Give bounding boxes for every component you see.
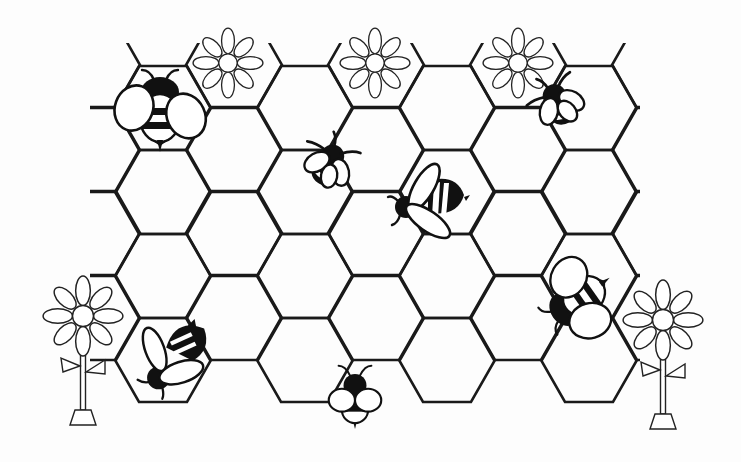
- hex-cell: [328, 276, 424, 360]
- flower-cell-1-icon: [193, 28, 263, 98]
- hex-cell: [257, 66, 353, 150]
- hex-cell: [115, 234, 211, 318]
- flower-cell-2-icon: [340, 28, 410, 98]
- illustration-canvas: [0, 0, 741, 462]
- top-flowers: [193, 28, 553, 98]
- hex-cell: [186, 191, 282, 275]
- bee-bottom-center-icon: [329, 366, 381, 429]
- hex-cell: [257, 234, 353, 318]
- hex-cell: [470, 191, 566, 275]
- hex-cell: [399, 318, 495, 402]
- bee-center-left-icon: [294, 124, 366, 196]
- bee-center-icon: [388, 159, 470, 244]
- hex-cell: [612, 23, 708, 107]
- hex-cell: [399, 66, 495, 150]
- bee-right-icon: [520, 238, 637, 360]
- hex-cell: [399, 234, 495, 318]
- hex-cell: [612, 108, 708, 192]
- hex-cell: [44, 191, 140, 275]
- flower-cell-3-icon: [483, 28, 553, 98]
- hex-cell: [541, 150, 637, 234]
- flower-head-icon: [43, 276, 123, 356]
- hex-cell: [612, 191, 708, 275]
- flower-head-icon: [623, 280, 703, 360]
- honeycomb-scene: [0, 0, 741, 462]
- left-flower-icon: [43, 276, 123, 425]
- hex-cell: [115, 150, 211, 234]
